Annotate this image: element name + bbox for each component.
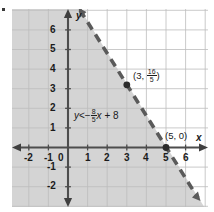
y-tick-1: 1 [50, 123, 56, 133]
inequality-plus: + [104, 110, 110, 121]
slope-numerator: 8 [91, 108, 97, 117]
y-tick-3: 3 [50, 84, 56, 94]
x-tick-5: 5 [163, 153, 169, 163]
x-tick-3: 3 [124, 153, 130, 163]
y-tick-6: 6 [50, 25, 56, 35]
point-marker-3-16-5 [123, 81, 130, 88]
x-axis-label: x [196, 133, 202, 143]
coordinate-plane [0, 0, 214, 212]
y-tick-5: 5 [50, 44, 56, 54]
inequality-label: y<−85x + 8 [74, 108, 119, 124]
x-tick-origin: 0 [58, 153, 64, 163]
x-tick-6: 6 [183, 153, 189, 163]
x-tick-neg1: -1 [44, 153, 53, 163]
fraction-denominator: 5 [147, 76, 157, 84]
point-marker-5-0 [163, 144, 170, 151]
point-label-3-16-5: (3, 165) [133, 68, 160, 84]
fraction-16-5: 165 [147, 68, 157, 84]
y-tick-2: 2 [50, 103, 56, 113]
inequality-intercept: 8 [113, 110, 119, 121]
point-label-5-0: (5, 0) [165, 131, 187, 141]
x-tick-1: 1 [85, 153, 91, 163]
y-axis-label: y [76, 11, 82, 21]
x-tick-2: 2 [104, 153, 110, 163]
point-label-open: (3, [133, 70, 147, 81]
y-tick-neg2: -2 [47, 181, 56, 191]
x-tick-4: 4 [143, 153, 149, 163]
point-label-close: ) [157, 70, 160, 81]
fraction-8-5: 85 [91, 108, 97, 124]
y-tick-4: 4 [50, 64, 56, 74]
fraction-numerator: 16 [147, 68, 157, 77]
x-tick-neg2: -2 [24, 153, 33, 163]
graph-figure: y x 6 5 4 3 2 1 -1 -2 -2 -1 0 1 2 3 4 5 … [0, 0, 214, 212]
slope-denominator: 5 [91, 116, 97, 124]
inequality-variable: x [97, 110, 102, 121]
y-tick-neg1: -1 [47, 162, 56, 172]
